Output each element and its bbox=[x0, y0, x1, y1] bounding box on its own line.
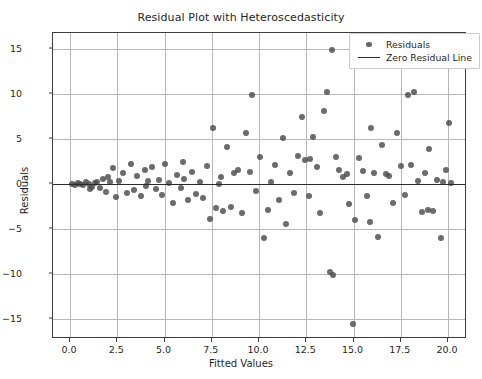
scatter-point bbox=[299, 114, 305, 120]
scatter-point bbox=[239, 210, 245, 216]
scatter-point bbox=[352, 217, 358, 223]
scatter-point bbox=[386, 173, 392, 179]
x-tick-mark bbox=[305, 338, 306, 342]
scatter-point bbox=[159, 192, 165, 198]
scatter-point bbox=[210, 125, 216, 131]
scatter-point bbox=[368, 125, 374, 131]
scatter-point bbox=[142, 167, 148, 173]
y-tick-label: 10 bbox=[0, 88, 22, 99]
zero-residual-line bbox=[53, 184, 465, 185]
x-tick-mark bbox=[400, 338, 401, 342]
scatter-point bbox=[350, 321, 356, 327]
x-tick-label: 12.5 bbox=[283, 344, 327, 355]
scatter-point bbox=[181, 176, 187, 182]
scatter-point bbox=[189, 169, 195, 175]
scatter-point bbox=[128, 161, 134, 167]
scatter-point bbox=[283, 221, 289, 227]
scatter-point bbox=[360, 168, 366, 174]
residual-plot-figure: Residual Plot with Heteroscedasticity 15… bbox=[0, 0, 482, 379]
scatter-point bbox=[434, 177, 440, 183]
x-tick-label: 20.0 bbox=[425, 344, 469, 355]
scatter-point bbox=[329, 47, 335, 53]
y-tick-mark bbox=[49, 318, 53, 319]
scatter-point bbox=[131, 187, 137, 193]
x-tick-mark bbox=[447, 338, 448, 342]
legend-label-zero-line: Zero Residual Line bbox=[382, 52, 472, 63]
scatter-point bbox=[346, 201, 352, 207]
scatter-point bbox=[170, 200, 176, 206]
scatter-point bbox=[375, 234, 381, 240]
scatter-point bbox=[162, 161, 168, 167]
scatter-point bbox=[411, 89, 417, 95]
scatter-point bbox=[438, 235, 444, 241]
x-tick-label: 7.5 bbox=[189, 344, 233, 355]
scatter-point bbox=[422, 170, 428, 176]
scatter-point bbox=[336, 167, 342, 173]
scatter-point bbox=[224, 144, 230, 150]
scatter-point bbox=[306, 193, 312, 199]
scatter-point bbox=[113, 194, 119, 200]
scatter-point bbox=[193, 191, 199, 197]
gridline-horizontal bbox=[53, 139, 465, 140]
scatter-point bbox=[213, 205, 219, 211]
plot-area bbox=[52, 32, 466, 338]
scatter-point bbox=[103, 189, 109, 195]
scatter-point bbox=[138, 193, 144, 199]
scatter-point bbox=[180, 159, 186, 165]
x-tick-mark bbox=[116, 338, 117, 342]
scatter-point bbox=[272, 162, 278, 168]
scatter-point bbox=[314, 164, 320, 170]
scatter-point bbox=[356, 155, 362, 161]
scatter-point bbox=[228, 204, 234, 210]
scatter-point bbox=[243, 130, 249, 136]
scatter-point bbox=[120, 170, 126, 176]
gridline-horizontal bbox=[53, 274, 465, 275]
x-tick-mark bbox=[353, 338, 354, 342]
legend-label-residuals: Residuals bbox=[382, 39, 430, 50]
x-tick-label: 15.0 bbox=[331, 344, 375, 355]
x-tick-label: 17.5 bbox=[378, 344, 422, 355]
scatter-point bbox=[249, 92, 255, 98]
scatter-point bbox=[379, 142, 385, 148]
y-tick-label: 15 bbox=[0, 43, 22, 54]
scatter-point bbox=[426, 146, 432, 152]
y-tick-mark bbox=[49, 183, 53, 184]
scatter-point bbox=[321, 108, 327, 114]
scatter-point bbox=[200, 195, 206, 201]
scatter-point bbox=[178, 185, 184, 191]
y-tick-label: −15 bbox=[0, 313, 22, 324]
scatter-point bbox=[367, 219, 373, 225]
scatter-point bbox=[371, 170, 377, 176]
gridline-horizontal bbox=[53, 229, 465, 230]
scatter-point bbox=[185, 197, 191, 203]
scatter-point bbox=[287, 170, 293, 176]
scatter-point bbox=[257, 154, 263, 160]
scatter-point bbox=[398, 163, 404, 169]
scatter-point bbox=[295, 153, 301, 159]
scatter-point bbox=[317, 210, 323, 216]
legend-item-zero-line: Zero Residual Line bbox=[356, 51, 472, 64]
scatter-point bbox=[291, 190, 297, 196]
scatter-point bbox=[333, 154, 339, 160]
scatter-point bbox=[110, 165, 116, 171]
x-tick-label: 5.0 bbox=[142, 344, 186, 355]
scatter-point bbox=[247, 169, 253, 175]
scatter-point bbox=[235, 167, 241, 173]
scatter-point bbox=[390, 200, 396, 206]
y-tick-mark bbox=[49, 228, 53, 229]
scatter-point bbox=[124, 190, 130, 196]
chart-legend: Residuals Zero Residual Line bbox=[349, 33, 480, 69]
x-tick-mark bbox=[211, 338, 212, 342]
x-tick-mark bbox=[164, 338, 165, 342]
x-tick-label: 10.0 bbox=[236, 344, 280, 355]
gridline-horizontal bbox=[53, 319, 465, 320]
scatter-point bbox=[394, 130, 400, 136]
scatter-point bbox=[446, 120, 452, 126]
y-axis-label: Residuals bbox=[19, 131, 30, 251]
scatter-point bbox=[153, 186, 159, 192]
scatter-point bbox=[402, 192, 408, 198]
x-tick-label: 2.5 bbox=[94, 344, 138, 355]
x-tick-label: 0.0 bbox=[47, 344, 91, 355]
scatter-point bbox=[330, 272, 336, 278]
y-tick-mark bbox=[49, 273, 53, 274]
